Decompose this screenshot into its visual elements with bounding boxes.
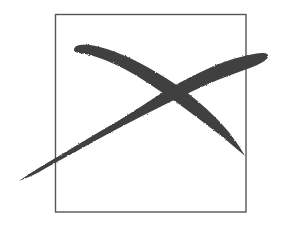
figure-svg [0,0,288,232]
x-mark-icon [19,45,268,181]
square-box [56,15,247,213]
figure [0,0,288,232]
